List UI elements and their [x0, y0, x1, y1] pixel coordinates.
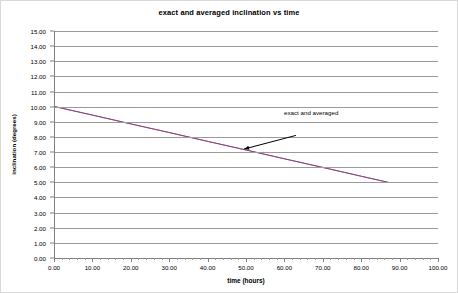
x-tick-minor-mark [315, 258, 316, 260]
x-tick-minor-mark [384, 258, 385, 260]
gridline [55, 31, 438, 32]
y-tick-label: 10.00 [31, 103, 46, 110]
x-tick-minor-mark [254, 258, 255, 260]
gridline [55, 197, 438, 198]
x-tick-mark [169, 258, 170, 262]
x-tick-label: 80.00 [353, 264, 368, 271]
x-tick-minor-mark [62, 258, 63, 260]
x-tick-mark [400, 258, 401, 262]
x-tick-minor-mark [307, 258, 308, 260]
x-tick-minor-mark [392, 258, 393, 260]
x-tick-minor-mark [138, 258, 139, 260]
x-tick-minor-mark [354, 258, 355, 260]
x-tick-minor-mark [123, 258, 124, 260]
x-tick-minor-mark [338, 258, 339, 260]
x-tick-minor-mark [300, 258, 301, 260]
y-tick-label: 11.00 [31, 88, 46, 95]
x-tick-minor-mark [69, 258, 70, 260]
gridline [55, 61, 438, 62]
y-tick-label: 0.00 [34, 255, 46, 262]
x-tick-minor-mark [115, 258, 116, 260]
x-tick-minor-mark [192, 258, 193, 260]
x-tick-minor-mark [430, 258, 431, 260]
y-tick-label: 12.00 [31, 73, 46, 80]
gridline [55, 243, 438, 244]
x-tick-minor-mark [407, 258, 408, 260]
gridline [55, 92, 438, 93]
x-tick-label: 90.00 [392, 264, 407, 271]
gridline [55, 107, 438, 108]
x-tick-mark [361, 258, 362, 262]
y-tick-label: 6.00 [34, 164, 46, 171]
x-tick-minor-mark [100, 258, 101, 260]
chart-container: exact and averaged inclination vs time i… [0, 0, 458, 293]
x-tick-minor-mark [200, 258, 201, 260]
y-tick-label: 15.00 [31, 28, 46, 35]
y-tick-label: 3.00 [34, 209, 46, 216]
x-tick-label: 20.00 [123, 264, 138, 271]
x-tick-minor-mark [185, 258, 186, 260]
y-tick-label: 1.00 [34, 239, 46, 246]
x-tick-label: 60.00 [277, 264, 292, 271]
y-axis-ticks: 0.001.002.003.004.005.006.007.008.009.00… [1, 31, 54, 258]
x-tick-minor-mark [162, 258, 163, 260]
x-tick-minor-mark [108, 258, 109, 260]
x-tick-minor-mark [77, 258, 78, 260]
x-tick-minor-mark [238, 258, 239, 260]
plot-area [54, 31, 438, 258]
x-tick-mark [323, 258, 324, 262]
y-tick-label: 9.00 [34, 118, 46, 125]
x-tick-label: 30.00 [161, 264, 176, 271]
y-tick-label: 4.00 [34, 194, 46, 201]
gridline [55, 152, 438, 153]
x-tick-minor-mark [377, 258, 378, 260]
y-tick-label: 7.00 [34, 149, 46, 156]
x-axis-title: time (hours) [54, 277, 438, 284]
gridline [55, 167, 438, 168]
y-tick-label: 13.00 [31, 58, 46, 65]
y-tick-label: 14.00 [31, 43, 46, 50]
x-tick-mark [284, 258, 285, 262]
gridline [55, 213, 438, 214]
x-tick-label: 70.00 [315, 264, 330, 271]
gridline [55, 182, 438, 183]
x-tick-minor-mark [154, 258, 155, 260]
x-tick-label: 100.00 [429, 264, 448, 271]
gridline [55, 228, 438, 229]
x-tick-minor-mark [292, 258, 293, 260]
x-tick-mark [208, 258, 209, 262]
x-tick-minor-mark [369, 258, 370, 260]
x-tick-minor-mark [177, 258, 178, 260]
x-tick-minor-mark [215, 258, 216, 260]
gridline [55, 137, 438, 138]
x-tick-minor-mark [261, 258, 262, 260]
x-tick-minor-mark [85, 258, 86, 260]
x-tick-mark [131, 258, 132, 262]
gridline [55, 46, 438, 47]
series-layer [55, 31, 438, 258]
x-tick-minor-mark [269, 258, 270, 260]
x-tick-label: 50.00 [238, 264, 253, 271]
x-tick-mark [54, 258, 55, 262]
gridline [55, 122, 438, 123]
y-tick-label: 2.00 [34, 224, 46, 231]
annotation-label: exact and averaged [284, 109, 338, 116]
y-tick-label: 5.00 [34, 179, 46, 186]
x-tick-minor-mark [346, 258, 347, 260]
x-tick-minor-mark [415, 258, 416, 260]
gridline [55, 76, 438, 77]
x-tick-label: 0.00 [48, 264, 60, 271]
x-tick-minor-mark [223, 258, 224, 260]
y-tick-label: 8.00 [34, 133, 46, 140]
x-tick-label: 40.00 [200, 264, 215, 271]
chart-title: exact and averaged inclination vs time [1, 8, 457, 17]
x-tick-mark [246, 258, 247, 262]
x-tick-mark [92, 258, 93, 262]
x-tick-minor-mark [231, 258, 232, 260]
x-tick-minor-mark [146, 258, 147, 260]
x-tick-label: 10.00 [85, 264, 100, 271]
x-tick-minor-mark [423, 258, 424, 260]
series-line [55, 107, 388, 183]
x-tick-minor-mark [277, 258, 278, 260]
x-tick-mark [438, 258, 439, 262]
